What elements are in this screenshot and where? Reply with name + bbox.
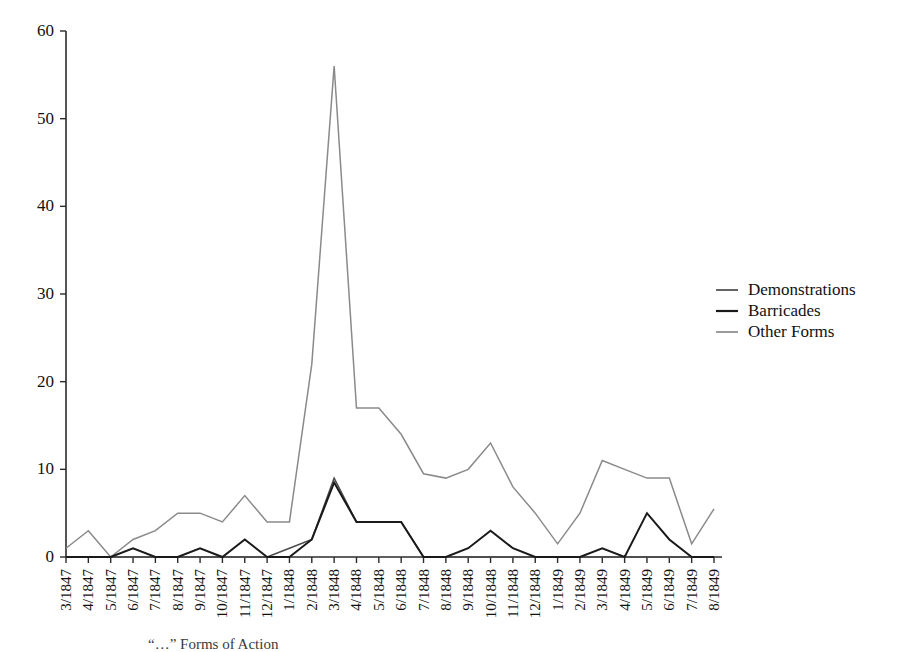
x-axis-tick-label: 9/1847 bbox=[192, 569, 208, 611]
x-axis-tick-label: 12/1847 bbox=[259, 569, 275, 619]
x-axis-tick-label: 5/1848 bbox=[371, 569, 387, 611]
y-axis-tick-label: 40 bbox=[37, 196, 54, 215]
y-axis-tick-label: 50 bbox=[37, 109, 54, 128]
series-line-barricades bbox=[66, 482, 714, 557]
x-axis-tick-label: 6/1849 bbox=[661, 569, 677, 611]
x-axis-tick-label: 6/1848 bbox=[393, 569, 409, 611]
legend-label-other-forms: Other Forms bbox=[748, 322, 834, 341]
x-axis-tick-label: 6/1847 bbox=[125, 569, 141, 611]
x-axis-tick-label: 11/1847 bbox=[237, 569, 253, 618]
x-axis-tick-label: 8/1849 bbox=[706, 569, 722, 611]
x-axis-tick-label: 10/1848 bbox=[483, 569, 499, 618]
y-axis-tick-label: 20 bbox=[37, 372, 54, 391]
x-axis-tick-label: 8/1848 bbox=[438, 569, 454, 611]
x-axis-tick-label: 2/1848 bbox=[304, 569, 320, 611]
x-axis-tick-label: 3/1848 bbox=[326, 569, 342, 611]
x-axis-tick-label: 3/1849 bbox=[594, 569, 610, 611]
x-axis-tick-label: 2/1849 bbox=[572, 569, 588, 611]
y-axis-tick-label: 30 bbox=[37, 284, 54, 303]
x-axis-tick-label: 3/1847 bbox=[58, 569, 74, 611]
x-axis-tick-label: 7/1849 bbox=[684, 569, 700, 611]
x-axis-tick-label: 5/1849 bbox=[639, 569, 655, 611]
series-line-other-forms bbox=[66, 66, 714, 557]
y-axis-tick-label: 0 bbox=[46, 547, 55, 566]
x-axis-tick-label: 12/1848 bbox=[527, 569, 543, 618]
line-chart-plot: 01020304050603/18474/18475/18476/18477/1… bbox=[0, 0, 904, 652]
legend-label-barricades: Barricades bbox=[748, 301, 821, 320]
x-axis-tick-label: 4/1847 bbox=[80, 569, 96, 611]
x-axis-tick-label: 7/1847 bbox=[147, 569, 163, 611]
y-axis-tick-label: 10 bbox=[37, 459, 54, 478]
chart-container: 01020304050603/18474/18475/18476/18477/1… bbox=[0, 0, 904, 652]
x-axis-tick-label: 1/1848 bbox=[281, 569, 297, 611]
x-axis-tick-label: 11/1848 bbox=[505, 569, 521, 618]
y-axis-tick-label: 60 bbox=[37, 21, 54, 40]
x-axis-tick-label: 8/1847 bbox=[170, 569, 186, 611]
figure-caption: “…” Forms of Action bbox=[0, 638, 904, 652]
series-line-demonstrations bbox=[66, 478, 714, 557]
x-axis-tick-label: 4/1848 bbox=[348, 569, 364, 611]
x-axis-tick-label: 10/1847 bbox=[214, 569, 230, 619]
x-axis-tick-label: 5/1847 bbox=[103, 569, 119, 611]
x-axis-tick-label: 9/1848 bbox=[460, 569, 476, 611]
x-axis-tick-label: 7/1848 bbox=[416, 569, 432, 611]
x-axis-tick-label: 1/1849 bbox=[550, 569, 566, 611]
x-axis-tick-label: 4/1849 bbox=[617, 569, 633, 611]
figure-caption-text: “…” Forms of Action bbox=[148, 638, 278, 652]
legend-label-demonstrations: Demonstrations bbox=[748, 280, 856, 299]
